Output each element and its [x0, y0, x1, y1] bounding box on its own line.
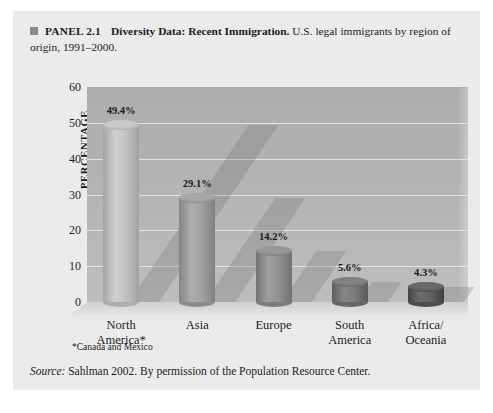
bar-top-ellipse — [256, 246, 292, 256]
bar-top-ellipse — [332, 277, 368, 287]
category-label-line: Europe — [231, 318, 317, 333]
panel-title-block: PANEL 2.1Diversity Data: Recent Immigrat… — [30, 24, 466, 55]
category-label-4: SouthAmerica — [307, 318, 393, 348]
source-label: Source: — [30, 365, 65, 377]
category-label-line: Asia — [154, 318, 240, 333]
panel-number: PANEL 2.1 — [45, 25, 101, 37]
bar-value-label: 5.6% — [338, 262, 362, 273]
source-text: Sahlman 2002. By permission of the Popul… — [65, 365, 370, 377]
bar-body — [179, 198, 215, 302]
category-label-2: Asia — [154, 318, 240, 333]
category-label-line: North — [78, 318, 164, 333]
bar-body — [256, 251, 292, 302]
category-label-5: Africa/Oceania — [383, 318, 469, 348]
category-label-line: Africa/ — [383, 318, 469, 333]
bar-3: 14.2% — [256, 251, 292, 302]
y-tick-40: 40 — [47, 151, 81, 166]
y-tick-20: 20 — [47, 223, 81, 238]
bar-value-label: 29.1% — [183, 178, 212, 189]
bar-1: 49.4% — [103, 125, 139, 302]
category-label-line: Oceania — [383, 333, 469, 348]
source-line: Source: Sahlman 2002. By permission of t… — [30, 365, 370, 377]
category-label-line: South — [307, 318, 393, 333]
panel-container: PANEL 2.1Diversity Data: Recent Immigrat… — [13, 11, 480, 390]
bar-value-label: 14.2% — [259, 231, 288, 242]
y-tick-50: 50 — [47, 115, 81, 130]
square-bullet-icon — [30, 27, 38, 35]
category-label-3: Europe — [231, 318, 317, 333]
y-tick-0: 0 — [47, 295, 81, 310]
footnote: *Canada and Mexico — [72, 342, 153, 352]
y-tick-10: 10 — [47, 259, 81, 274]
bar-5: 4.3% — [408, 287, 444, 302]
bar-value-label: 4.3% — [414, 267, 438, 278]
bar-value-label: 49.4% — [107, 105, 136, 116]
bar-body — [103, 125, 139, 302]
bar-top-ellipse — [408, 282, 444, 292]
panel-subject: Diversity Data: Recent Immigration. — [111, 25, 289, 37]
bar-4: 5.6% — [332, 282, 368, 302]
category-label-line: America — [307, 333, 393, 348]
y-tick-60: 60 — [47, 80, 81, 95]
gridline-40 — [87, 159, 468, 160]
bar-2: 29.1% — [179, 198, 215, 302]
bar-top-ellipse — [103, 120, 139, 130]
bar-top-ellipse — [179, 193, 215, 203]
chart-area: PERCENTAGE 60 50 40 30 20 10 0 49.4%29.1… — [30, 66, 466, 331]
gridline-30 — [87, 195, 468, 196]
y-tick-30: 30 — [47, 187, 81, 202]
gridline-50 — [87, 123, 468, 124]
